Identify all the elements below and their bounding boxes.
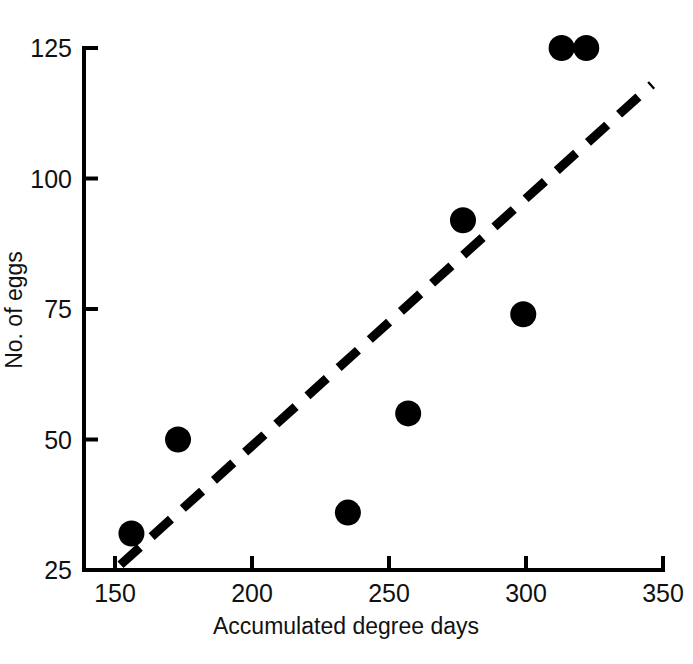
scatter-plot-figure: 255075100125 150200250300350 Accumulated… [0,0,693,664]
x-axis-title: Accumulated degree days [213,613,479,639]
y-tick-label: 50 [44,426,72,454]
data-point [118,520,144,546]
data-point [510,301,536,327]
data-point [395,400,421,426]
data-point [549,35,575,61]
y-tick-label: 75 [44,295,72,323]
data-point [573,35,599,61]
x-tick-label: 300 [505,579,547,607]
y-axis-title: No. of eggs [1,251,27,369]
data-point [450,207,476,233]
x-tick-label: 350 [642,579,684,607]
y-tick-label: 25 [44,556,72,584]
x-tick-label: 150 [94,579,136,607]
y-tick-label: 125 [30,34,72,62]
y-tick-label: 100 [30,165,72,193]
plot-background [0,0,693,664]
data-point [165,427,191,453]
plot-canvas: 255075100125 150200250300350 Accumulated… [0,0,693,664]
x-tick-label: 250 [368,579,410,607]
data-point [335,500,361,526]
x-tick-label: 200 [231,579,273,607]
